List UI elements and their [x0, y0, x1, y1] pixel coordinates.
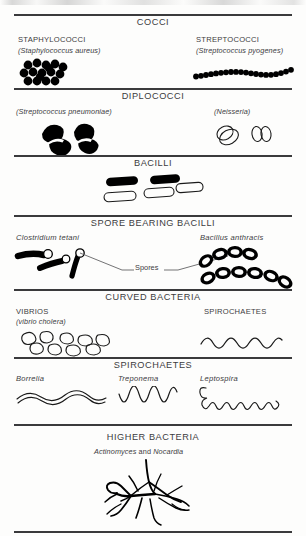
leptospira-illustration: [196, 383, 296, 417]
streptococci-illustration: [192, 60, 296, 86]
bacilli-illustration: [100, 172, 208, 208]
genus-label-clostridium-tetani: Clostridium tetani: [16, 233, 79, 242]
species-label-neisseria: (Neisseria): [214, 107, 250, 116]
curved-spirochaete-illustration: [198, 330, 296, 356]
actinomyces-nocardia-illustration: [98, 458, 210, 532]
section-title-bacilli: BACILLI: [0, 158, 306, 168]
genus-label-spirochaetes-curved: SPIROCHAETES: [204, 307, 267, 316]
treponema-illustration: [116, 386, 188, 412]
genus-label-borrelia: Borrelia: [16, 374, 44, 383]
bacterial-morphology-chart: COCCI STAPHYLOCOCCI (Staphylococcus aure…: [0, 0, 306, 536]
section-title-curved-bacteria: CURVED BACTERIA: [0, 292, 306, 302]
genus-label-leptospira: Leptospira: [200, 374, 238, 383]
vibrios-illustration: [16, 328, 118, 360]
genus-actinomyces: Actinomyces: [94, 447, 136, 456]
divider-spirochaetes: [14, 357, 292, 359]
divider-bottom: [14, 531, 292, 533]
divider-bacilli: [14, 155, 292, 157]
divider-spore-bearing: [14, 215, 292, 217]
divider-diplococci: [14, 88, 292, 90]
divider-higher-bacteria: [14, 424, 292, 426]
neisseria-illustration: [214, 120, 278, 152]
section-title-diplococci: DIPLOCOCCI: [0, 91, 306, 101]
species-label-staphylococcus-aureus: (Staphylococcus aureus): [18, 46, 101, 55]
pneumococci-illustration: [36, 118, 108, 156]
conjunction-and: and: [139, 447, 151, 456]
genus-label-vibrios: VIBRIOS: [16, 307, 49, 316]
section-title-spirochaetes: SPIROCHAETES: [0, 360, 306, 370]
spores-annotation: Spores: [135, 263, 158, 272]
scan-edge-artifact: [0, 0, 306, 5]
section-title-cocci: COCCI: [0, 17, 306, 27]
borrelia-illustration: [14, 386, 110, 414]
genus-label-treponema: Treponema: [118, 374, 159, 383]
bacillus-anthracis-illustration: [196, 245, 302, 289]
section-title-spore-bearing-bacilli: SPORE BEARING BACILLI: [0, 218, 306, 228]
species-label-streptococcus-pneumoniae: (Streptococcus pneumoniae): [16, 107, 112, 116]
section-title-higher-bacteria: HIGHER BACTERIA: [0, 432, 306, 442]
genus-label-bacillus-anthracis: Bacillus anthracis: [200, 233, 264, 242]
species-label-vibrio-cholera: (vibrio cholera): [16, 317, 66, 326]
staphylococci-illustration: [18, 57, 90, 89]
genus-label-staphylococci: STAPHYLOCOCCI: [18, 35, 86, 44]
divider-top: [14, 14, 292, 16]
species-label-streptococcus-pyogenes: (Streptococcus pyogenes): [196, 46, 283, 55]
divider-curved-bacteria: [14, 289, 292, 291]
genus-label-streptococci: STREPTOCOCCI: [196, 35, 259, 44]
genus-label-actinomyces-nocardia: Actinomyces and Nocardia: [94, 447, 183, 456]
genus-nocardia: Nocardia: [153, 447, 183, 456]
